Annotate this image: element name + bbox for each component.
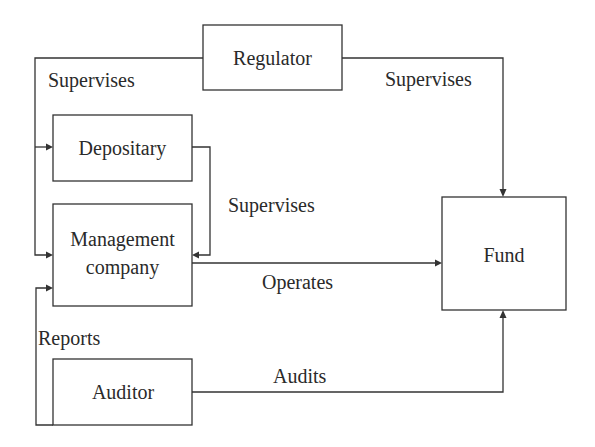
arrowhead-into-management-left: [46, 252, 53, 259]
node-regulator: Regulator: [203, 25, 342, 90]
fund-structure-diagram: Regulator Depositary Management company …: [0, 0, 595, 447]
node-auditor-label: Auditor: [92, 381, 155, 403]
edge-label-supervises-right: Supervises: [385, 68, 472, 91]
edge-label-audits: Audits: [273, 365, 327, 387]
node-fund-label: Fund: [483, 244, 524, 266]
edge-auditor-to-management: [36, 288, 53, 425]
arrowhead-reports-into-management: [46, 285, 53, 292]
node-fund: Fund: [442, 197, 566, 310]
edge-label-reports: Reports: [38, 327, 100, 350]
arrowhead-into-fund-left: [435, 260, 442, 267]
arrowhead-into-fund-bottom: [500, 310, 507, 318]
edge-auditor-to-fund: [192, 316, 503, 392]
node-depositary-label: Depositary: [79, 137, 167, 160]
edge-label-supervises-depositary: Supervises: [228, 194, 315, 217]
node-management-label-line2: company: [86, 256, 159, 279]
node-management-label-line1: Management: [70, 228, 175, 251]
edge-label-supervises-left: Supervises: [48, 69, 135, 92]
edge-depositary-to-management: [192, 147, 210, 255]
arrowhead-into-fund-top: [500, 189, 507, 197]
node-regulator-label: Regulator: [233, 47, 312, 70]
node-depositary: Depositary: [53, 115, 192, 181]
node-management-company: Management company: [53, 204, 192, 306]
edge-label-operates: Operates: [262, 271, 333, 294]
arrowhead-into-depositary: [46, 144, 53, 151]
node-auditor: Auditor: [53, 359, 192, 425]
arrowhead-into-management-right: [192, 252, 199, 259]
